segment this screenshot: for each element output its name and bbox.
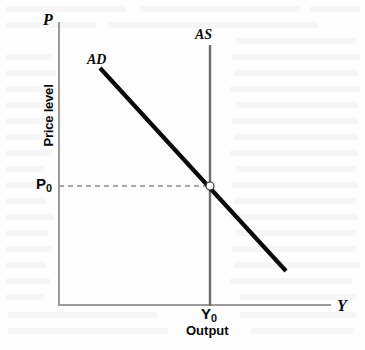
y-axis-title: Price level [41, 76, 56, 156]
as-curve-label: AS [195, 27, 212, 43]
ad-curve [100, 68, 286, 271]
y0-subscript: 0 [211, 312, 217, 324]
p0-tick-label: P0 [36, 175, 52, 194]
y0-tick-label: Y0 [201, 305, 217, 324]
equilibrium-point-marker [206, 182, 214, 190]
ad-curve-label: AD [87, 52, 106, 68]
figure-canvas: P Y AD AS Price level P0 Y0 Output [0, 0, 365, 350]
p0-base: P [36, 175, 46, 192]
y0-base: Y [201, 305, 211, 322]
p0-subscript: 0 [46, 182, 52, 194]
x-axis-symbol-label: Y [337, 297, 347, 315]
ad-as-plot [0, 0, 365, 350]
x-axis-title: Output [186, 323, 229, 338]
y-axis-symbol-label: P [43, 11, 53, 29]
